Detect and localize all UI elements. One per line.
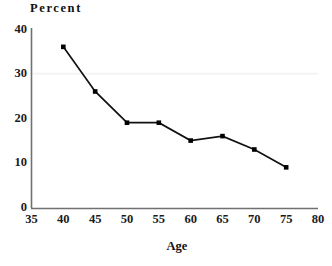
y-tick-label: 0 [1, 201, 27, 214]
data-point-marker [61, 45, 66, 50]
data-point-markers [61, 45, 288, 170]
y-tick-label: 40 [1, 23, 27, 36]
x-tick-label: 65 [210, 213, 236, 226]
y-tick-label: 30 [1, 67, 27, 80]
data-point-marker [284, 165, 289, 170]
x-tick-label: 55 [146, 213, 172, 226]
x-tick-label: 40 [50, 213, 76, 226]
x-tick-label: 50 [114, 213, 140, 226]
x-tick-label: 70 [241, 213, 267, 226]
x-axis-title: Age [0, 239, 332, 254]
plot-area [0, 0, 332, 266]
data-point-marker [188, 138, 193, 143]
y-tick-label: 20 [1, 112, 27, 125]
y-tick-label: 10 [1, 156, 27, 169]
x-tick-label: 75 [273, 213, 299, 226]
x-tick-label: 45 [82, 213, 108, 226]
data-point-marker [93, 89, 98, 94]
x-tick-label: 35 [19, 213, 45, 226]
line-chart: Percent 010203040 35404550556065707580 A… [0, 0, 332, 266]
data-point-marker [252, 147, 257, 152]
x-tick-label: 60 [178, 213, 204, 226]
data-point-marker [157, 120, 162, 125]
data-point-marker [220, 134, 225, 139]
data-point-marker [125, 120, 130, 125]
x-tick-label: 80 [305, 213, 331, 226]
